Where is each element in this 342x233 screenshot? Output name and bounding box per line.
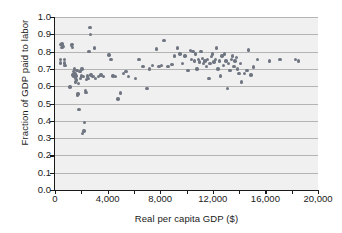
y-tick-label: 0.5 <box>7 99 51 109</box>
gridline-y <box>55 121 318 122</box>
data-point <box>211 52 214 55</box>
data-point <box>230 58 233 61</box>
data-point <box>173 54 176 57</box>
data-point <box>148 67 151 70</box>
data-point <box>109 58 112 61</box>
y-tick-mark <box>50 69 54 70</box>
data-point <box>82 129 85 132</box>
data-point <box>268 59 271 62</box>
data-point <box>186 69 189 72</box>
y-tick-mark <box>50 190 54 191</box>
y-tick-label: 0.4 <box>7 116 51 126</box>
data-point <box>83 121 86 124</box>
data-point <box>183 54 186 57</box>
data-point <box>61 45 64 48</box>
data-point <box>145 87 148 90</box>
data-point <box>222 64 225 67</box>
data-point <box>80 67 83 70</box>
data-point <box>198 60 201 63</box>
x-tick-label: 12,000 <box>188 193 238 204</box>
data-point <box>227 62 230 65</box>
gridline-y <box>55 155 318 156</box>
y-tick-mark <box>50 86 54 87</box>
data-point <box>68 85 71 88</box>
data-point <box>119 91 122 94</box>
x-tick-mark <box>55 190 56 194</box>
y-tick-label: 0.1 <box>7 168 51 178</box>
y-tick-mark <box>50 155 54 156</box>
data-point <box>155 47 158 50</box>
data-point <box>87 50 90 53</box>
y-tick-mark <box>50 52 54 53</box>
x-tick-label: 4,000 <box>83 193 133 204</box>
data-point <box>239 62 242 65</box>
data-point <box>181 62 184 65</box>
x-tick-mark <box>160 190 161 194</box>
data-point <box>208 62 211 65</box>
data-point <box>77 108 80 111</box>
data-point <box>205 65 208 68</box>
data-point <box>151 64 154 67</box>
y-tick-label: 0.2 <box>7 150 51 160</box>
data-point <box>124 70 127 73</box>
data-point <box>162 39 165 42</box>
data-point <box>86 77 89 80</box>
data-point <box>63 64 66 67</box>
data-point <box>206 58 209 61</box>
data-point <box>228 69 231 72</box>
data-point <box>127 75 130 78</box>
gridline-y <box>55 17 318 18</box>
data-point <box>223 52 226 55</box>
x-tick-mark <box>265 190 266 194</box>
plot-area <box>55 17 318 190</box>
gridline-y <box>55 138 318 139</box>
y-tick-mark <box>50 173 54 174</box>
y-tick-mark <box>50 17 54 18</box>
y-tick-mark <box>50 34 54 35</box>
x-minor-tick-mark <box>239 190 240 194</box>
data-point <box>297 59 300 62</box>
data-point <box>134 77 137 80</box>
y-tick-label: 0.3 <box>7 133 51 143</box>
data-point <box>166 65 169 68</box>
data-point <box>252 65 255 68</box>
y-tick-label: 0.6 <box>7 81 51 91</box>
x-tick-mark <box>108 190 109 194</box>
data-point <box>77 82 80 85</box>
data-point <box>226 87 229 90</box>
data-point <box>88 26 91 29</box>
data-point <box>193 59 196 62</box>
data-point <box>89 33 92 36</box>
x-minor-tick-mark <box>81 190 82 194</box>
x-minor-tick-mark <box>134 190 135 194</box>
data-point <box>231 54 234 57</box>
data-point <box>240 80 243 83</box>
data-point <box>245 69 248 72</box>
data-point <box>71 46 74 49</box>
data-point <box>76 92 79 95</box>
x-tick-mark <box>213 190 214 194</box>
data-point <box>176 46 179 49</box>
data-point <box>194 52 197 55</box>
data-point <box>59 61 62 64</box>
data-point <box>218 59 221 62</box>
data-point <box>247 48 250 51</box>
x-axis-label: Real per capita GDP ($) <box>55 213 318 224</box>
gridline-y <box>55 173 318 174</box>
data-point <box>116 97 119 100</box>
data-point <box>93 46 96 49</box>
data-point <box>74 74 77 77</box>
y-tick-label: 1.0 <box>7 12 51 22</box>
gridline-y <box>55 52 318 53</box>
data-point <box>235 56 238 59</box>
data-point <box>160 64 163 67</box>
y-tick-mark <box>50 104 54 105</box>
data-point <box>102 75 105 78</box>
data-point <box>237 72 240 75</box>
data-point <box>207 77 210 80</box>
data-point <box>178 52 181 55</box>
data-point <box>219 74 222 77</box>
data-point <box>233 59 236 62</box>
data-point <box>199 50 202 53</box>
y-tick-mark <box>50 138 54 139</box>
